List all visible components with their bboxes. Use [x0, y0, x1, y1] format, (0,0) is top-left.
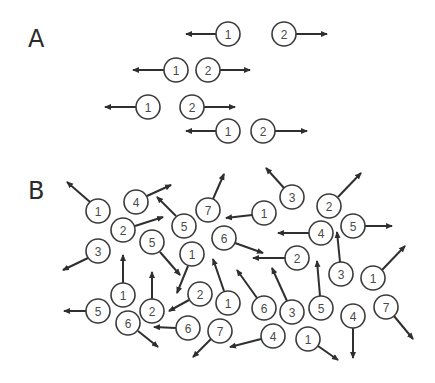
- particle-number: 1: [305, 333, 312, 347]
- particle-number: 7: [205, 204, 212, 218]
- particle: 2: [253, 246, 309, 270]
- velocity-arrow-icon: [213, 259, 224, 291]
- particle-number: 1: [225, 297, 232, 311]
- particle: 4: [124, 185, 171, 214]
- velocity-arrow-icon: [147, 185, 171, 196]
- diagram-canvas: A 12121212 B 142355716132452311225661635…: [0, 0, 435, 383]
- particle-number: 3: [338, 268, 345, 282]
- velocity-arrow-icon: [318, 346, 338, 360]
- particle-number: 5: [149, 236, 156, 250]
- particle: 4: [278, 221, 333, 245]
- particle: 3: [329, 232, 353, 286]
- velocity-arrow-icon: [382, 246, 405, 270]
- velocity-arrow-icon: [394, 316, 413, 339]
- velocity-arrow-icon: [235, 243, 263, 253]
- particle-number: 3: [289, 191, 296, 205]
- particle-number: 2: [189, 101, 196, 115]
- particle-number: 2: [205, 64, 212, 78]
- particle: 1: [296, 327, 338, 360]
- particle-number: 6: [185, 322, 192, 336]
- panel-label-a: A: [28, 25, 45, 53]
- particle: 2: [180, 95, 235, 119]
- particle: 1: [361, 246, 405, 290]
- particle-number: 7: [217, 325, 224, 339]
- velocity-arrow-icon: [177, 266, 188, 293]
- panel-a: 12121212: [105, 22, 327, 143]
- velocity-arrow-icon: [67, 182, 90, 202]
- velocity-arrow-icon: [160, 252, 180, 275]
- particle-number: 6: [221, 232, 228, 246]
- particle: 2: [251, 119, 307, 143]
- particle: 5: [140, 230, 180, 275]
- velocity-arrow-icon: [169, 300, 189, 311]
- particle: 1: [186, 119, 240, 143]
- particle-number: 2: [149, 305, 156, 319]
- particle-number: 1: [95, 205, 102, 219]
- particle: 2: [140, 272, 164, 323]
- panel-label-b: B: [28, 177, 44, 205]
- particle-number: 1: [173, 64, 180, 78]
- particle: 1: [186, 22, 240, 46]
- velocity-arrow-icon: [237, 270, 257, 298]
- particle-number: 1: [261, 207, 268, 221]
- particle: 5: [341, 214, 392, 238]
- particle: 5: [64, 299, 110, 323]
- particle: 6: [237, 270, 276, 320]
- particle-number: 2: [120, 224, 127, 238]
- particle-number: 1: [145, 101, 152, 115]
- particle: 2: [169, 282, 212, 311]
- velocity-arrow-icon: [266, 168, 284, 188]
- particle-number: 4: [318, 227, 325, 241]
- particle-number: 1: [225, 28, 232, 42]
- particle-number: 1: [120, 289, 127, 303]
- particle-number: 2: [281, 28, 288, 42]
- velocity-arrow-icon: [338, 173, 361, 197]
- particle: 1: [133, 58, 188, 82]
- particle: 6: [212, 226, 263, 253]
- particle-diagram: A 12121212 B 142355716132452311225661635…: [0, 0, 435, 383]
- particle: 7: [196, 174, 224, 222]
- velocity-arrow-icon: [226, 215, 252, 218]
- particle-number: 1: [189, 248, 196, 262]
- particle-number: 5: [181, 220, 188, 234]
- particle: 1: [105, 95, 160, 119]
- velocity-arrow-icon: [154, 327, 176, 328]
- velocity-arrow-icon: [337, 232, 340, 262]
- particle-number: 1: [225, 125, 232, 139]
- velocity-arrow-icon: [138, 331, 158, 347]
- velocity-arrow-icon: [230, 339, 261, 347]
- velocity-arrow-icon: [213, 174, 224, 199]
- particle: 4: [341, 304, 365, 358]
- velocity-arrow-icon: [193, 339, 211, 357]
- particle-number: 2: [294, 252, 301, 266]
- particle: 2: [317, 173, 361, 218]
- particle: 7: [374, 295, 413, 339]
- particle-number: 5: [95, 305, 102, 319]
- particle-number: 2: [260, 125, 267, 139]
- particle: 1: [111, 255, 135, 307]
- particle-number: 3: [289, 306, 296, 320]
- velocity-arrow-icon: [157, 197, 176, 216]
- velocity-arrow-icon: [63, 258, 88, 270]
- particle-number: 3: [95, 245, 102, 259]
- particle-number: 2: [197, 288, 204, 302]
- particle: 3: [63, 239, 110, 270]
- velocity-arrow-icon: [317, 261, 320, 296]
- particle-number: 6: [125, 317, 132, 331]
- particle-number: 5: [350, 220, 357, 234]
- particle-number: 6: [261, 302, 268, 316]
- particle: 1: [67, 182, 110, 223]
- particle: 1: [213, 259, 240, 315]
- particle-number: 7: [383, 301, 390, 315]
- particle-number: 4: [350, 310, 357, 324]
- particle-number: 4: [133, 196, 140, 210]
- velocity-arrow-icon: [135, 217, 163, 226]
- particle: 4: [230, 324, 285, 348]
- particle-number: 4: [270, 330, 277, 344]
- velocity-arrow-icon: [272, 268, 287, 301]
- panel-b: 14235571613245231122566163574147: [63, 168, 413, 360]
- particle: 1: [226, 201, 276, 225]
- particle-number: 1: [370, 272, 377, 286]
- particle-number: 2: [326, 200, 333, 214]
- particle: 2: [272, 22, 327, 46]
